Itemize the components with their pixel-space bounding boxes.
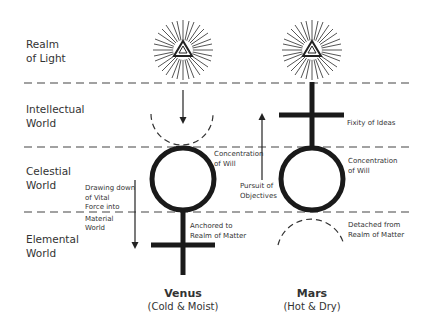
realm-intellectual-line2: World xyxy=(26,116,85,130)
venus-qualities: (Cold & Moist) xyxy=(133,300,233,313)
note-line: Fixity of Ideas xyxy=(347,119,395,129)
realm-intellectual-line1: Intellectual xyxy=(26,102,85,116)
realm-light-line1: Realm xyxy=(26,37,66,51)
mars-symbol-icon xyxy=(278,82,344,245)
note-line: Concentration xyxy=(348,157,398,167)
realm-celestial-line2: World xyxy=(26,178,71,192)
note-line: Realm of Matter xyxy=(348,231,404,241)
venus-symbol-icon xyxy=(151,90,215,275)
mars-note-detached: Detached from Realm of Matter xyxy=(348,221,404,240)
note-line: Material xyxy=(85,215,135,225)
note-line: of Will xyxy=(214,160,264,170)
realm-label-light: Realm of Light xyxy=(26,37,66,65)
note-line: Anchored to xyxy=(190,222,246,232)
venus-radiant-sun-icon xyxy=(153,20,213,80)
realm-celestial-line1: Celestial xyxy=(26,164,71,178)
venus-name: Venus xyxy=(133,287,233,300)
note-line: of Vital xyxy=(85,194,135,204)
realm-light-line2: of Light xyxy=(26,51,66,65)
note-line: Drawing down xyxy=(85,184,135,194)
realm-elemental-line2: World xyxy=(26,246,79,260)
note-line: Objectives xyxy=(240,192,277,202)
note-line: Pursuit of xyxy=(240,182,277,192)
note-line: Concentration xyxy=(214,150,264,160)
venus-note-anchored: Anchored to Realm of Matter xyxy=(190,222,246,241)
note-line: Force into xyxy=(85,203,135,213)
mars-note-pursuit: Pursuit of Objectives xyxy=(240,182,277,201)
realm-label-intellectual: Intellectual World xyxy=(26,102,85,130)
mars-note-concentration: Concentration of Will xyxy=(348,157,398,176)
realm-label-celestial: Celestial World xyxy=(26,164,71,192)
mars-radiant-sun-icon xyxy=(282,20,342,80)
note-line: Detached from xyxy=(348,221,404,231)
mars-caption: Mars (Hot & Dry) xyxy=(262,287,362,313)
note-line: Realm of Matter xyxy=(190,232,246,242)
note-line: of Will xyxy=(348,167,398,177)
mars-qualities: (Hot & Dry) xyxy=(262,300,362,313)
mars-dashed-arc xyxy=(278,219,344,245)
venus-note-concentration: Concentration of Will xyxy=(214,150,264,169)
mars-note-fixity: Fixity of Ideas xyxy=(347,119,395,129)
venus-caption: Venus (Cold & Moist) xyxy=(133,287,233,313)
realm-label-elemental: Elemental World xyxy=(26,232,79,260)
realm-elemental-line1: Elemental xyxy=(26,232,79,246)
note-line: World xyxy=(85,224,135,234)
venus-note-drawing-down: Drawing down of Vital Force into Materia… xyxy=(85,184,135,234)
mars-name: Mars xyxy=(262,287,362,300)
